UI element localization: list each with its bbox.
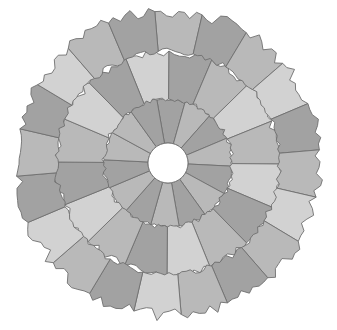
center-hole [148, 143, 188, 183]
game-board [0, 0, 337, 330]
